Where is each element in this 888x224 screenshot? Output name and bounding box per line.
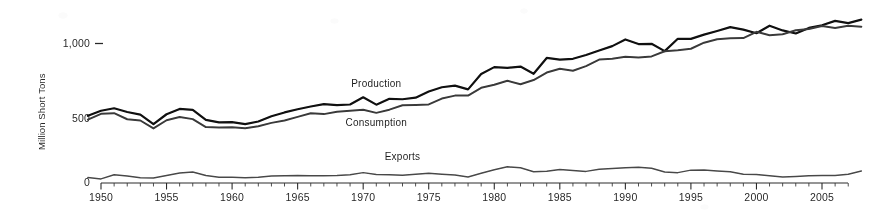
x-tick-label-2000: 2000: [744, 191, 768, 203]
x-axis-major-ticks: [101, 183, 822, 190]
x-tick-label-1960: 1960: [220, 191, 244, 203]
y-tick-label-1000: 1,000: [63, 37, 90, 49]
x-tick-label-1950: 1950: [89, 191, 113, 203]
x-tick-label-1995: 1995: [679, 191, 703, 203]
series-label-consumption: Consumption: [345, 117, 407, 128]
x-tick-label-1985: 1985: [548, 191, 572, 203]
x-tick-label-2005: 2005: [810, 191, 834, 203]
x-tick-label-1980: 1980: [482, 191, 506, 203]
chart-canvas: 1,000 500 0 Million Short Tons 195019551…: [0, 0, 888, 224]
x-tick-label-1965: 1965: [286, 191, 310, 203]
y-tick-label-500: 500: [72, 112, 90, 124]
x-tick-label-1990: 1990: [613, 191, 637, 203]
series-line-production: [88, 20, 861, 125]
coal-statistics-line-chart: 1,000 500 0 Million Short Tons 195019551…: [0, 0, 888, 224]
x-tick-label-1970: 1970: [351, 191, 375, 203]
series-label-production: Production: [351, 78, 401, 89]
x-tick-label-1975: 1975: [417, 191, 441, 203]
x-tick-label-1955: 1955: [154, 191, 178, 203]
series-line-consumption: [88, 26, 861, 129]
series-line-exports: [88, 167, 861, 179]
y-axis-title: Million Short Tons: [36, 73, 47, 150]
y-axis-labels: 1,000 500 0: [63, 37, 90, 188]
x-axis-labels: 1950195519601965197019751980198519901995…: [89, 191, 834, 203]
series-label-exports: Exports: [385, 151, 421, 162]
